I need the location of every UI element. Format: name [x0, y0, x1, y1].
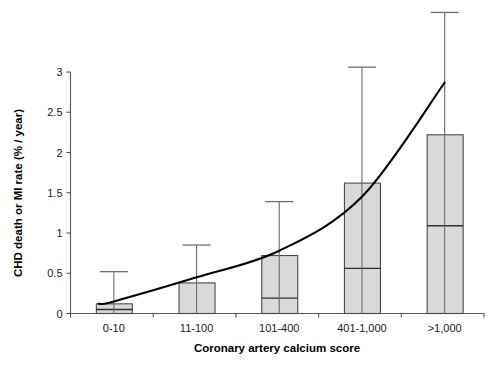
whiskers-layer — [100, 12, 459, 313]
chart-container: 00.511.522.53 0-1011-100101-400401-1,000… — [0, 0, 498, 365]
x-tick-group — [71, 314, 485, 318]
calcium-score-chart: 00.511.522.53 0-1011-100101-400401-1,000… — [0, 0, 498, 365]
x-tick-label-group: 0-1011-100101-400401-1,000>1,000 — [103, 322, 462, 334]
x-axis-group — [71, 314, 485, 318]
y-tick-label: 1.5 — [47, 187, 62, 199]
y-axis-label: CHD death or MI rate (% / year) — [12, 109, 24, 277]
x-tick-label: 0-10 — [103, 322, 125, 334]
x-tick-label: 11-100 — [180, 322, 213, 334]
y-tick-label: 2 — [56, 147, 62, 159]
y-tick-label: 2.5 — [47, 106, 62, 118]
y-tick-label: 0.5 — [47, 267, 62, 279]
footer-artifact-text — [250, 349, 496, 358]
y-tick-label: 3 — [56, 66, 62, 78]
y-tick-label: 0 — [56, 308, 62, 320]
x-tick-label: >1,000 — [428, 322, 462, 334]
y-tick-group: 00.511.522.53 — [47, 66, 70, 320]
x-tick-label: 401-1,000 — [337, 322, 387, 334]
x-tick-label: 101-400 — [259, 322, 299, 334]
y-tick-label: 1 — [56, 227, 62, 239]
y-axis-group: 00.511.522.53 — [47, 66, 70, 320]
